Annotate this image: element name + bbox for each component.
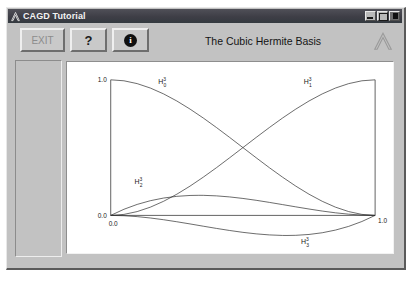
page-title: The Cubic Hermite Basis bbox=[158, 23, 368, 58]
application-window: CAGD Tutorial EXIT ? i The Cubic Hermite… bbox=[6, 7, 406, 270]
plot-panel[interactable]: 1.00.00.01.0 H30H31H32H33 bbox=[66, 61, 394, 254]
curve-label-H_1^3: H31 bbox=[304, 77, 312, 88]
curve-H_2^3 bbox=[111, 215, 375, 235]
minimize-icon[interactable] bbox=[365, 11, 376, 21]
curve-H_3^3 bbox=[111, 80, 375, 216]
window-title: CAGD Tutorial bbox=[23, 11, 86, 22]
sidebar-panel[interactable] bbox=[15, 60, 62, 257]
help-button[interactable]: ? bbox=[70, 28, 107, 52]
screenshot-root: CAGD Tutorial EXIT ? i The Cubic Hermite… bbox=[0, 0, 413, 290]
close-icon[interactable] bbox=[389, 11, 400, 21]
curve-label-H_0^3: H30 bbox=[158, 77, 166, 88]
window-controls bbox=[365, 11, 400, 21]
y-tick-min: 0.0 bbox=[98, 212, 107, 219]
y-tick-max: 1.0 bbox=[98, 76, 107, 83]
x-tick-min: 0.0 bbox=[109, 220, 118, 227]
maximize-icon[interactable] bbox=[377, 11, 388, 21]
curve-H_1^3 bbox=[111, 195, 375, 215]
curve-label-H_3^3: H33 bbox=[301, 237, 309, 248]
info-button[interactable]: i bbox=[112, 28, 149, 52]
x-tick-max: 1.0 bbox=[378, 217, 387, 224]
hermite-basis-chart: 1.00.00.01.0 H30H31H32H33 bbox=[67, 62, 393, 253]
lambda-logo-icon bbox=[10, 11, 21, 22]
exit-button[interactable]: EXIT bbox=[20, 28, 65, 52]
chart-curves bbox=[111, 80, 375, 236]
chart-tick-labels: 1.00.00.01.0 bbox=[98, 76, 388, 227]
title-bar[interactable]: CAGD Tutorial bbox=[8, 9, 402, 23]
lambda-logo-icon bbox=[372, 30, 394, 52]
toolbar: EXIT ? i The Cubic Hermite Basis bbox=[8, 23, 402, 58]
info-icon: i bbox=[124, 34, 137, 47]
content-area: 1.00.00.01.0 H30H31H32H33 bbox=[8, 58, 402, 268]
curve-label-H_2^3: H32 bbox=[135, 177, 143, 188]
